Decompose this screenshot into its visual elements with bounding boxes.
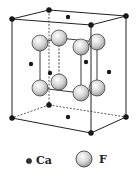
legend-item-f: F [74, 149, 107, 169]
f-sphere-icon [74, 149, 94, 169]
fluorite-unit-cell-diagram [0, 0, 136, 145]
legend: Ca F [0, 149, 136, 173]
legend-item-ca: Ca [25, 154, 52, 167]
legend-label-ca: Ca [36, 154, 52, 167]
legend-label-f: F [99, 153, 107, 166]
ca-ions-back [29, 15, 111, 119]
ca-sphere-icon [25, 157, 33, 165]
